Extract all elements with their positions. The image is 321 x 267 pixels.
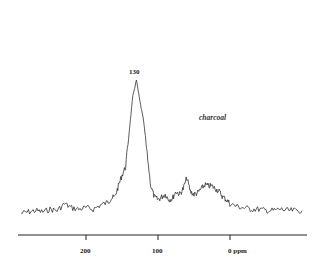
sample-label: charcoal [199,113,226,122]
x-tick-label-200: 200 [80,247,91,255]
peak-label: 130 [129,68,140,76]
spectrum-trace [21,80,302,214]
nmr-spectrum-plot [0,0,321,267]
x-tick-label-100: 100 [152,247,163,255]
x-tick-label-0: 0 ppm [228,247,247,255]
